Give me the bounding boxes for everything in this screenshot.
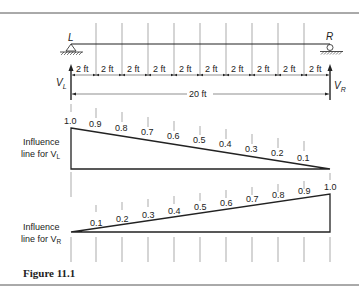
svg-text:0.8: 0.8 [272, 190, 285, 200]
svg-text:0.7: 0.7 [246, 194, 259, 204]
reaction-arrow-left-icon [69, 64, 74, 100]
svg-text:0.2: 0.2 [116, 214, 129, 224]
figure-11-1: L R VL VR 2 ft [0, 0, 359, 293]
svg-text:2 ft: 2 ft [257, 64, 270, 74]
svg-text:0.4: 0.4 [219, 139, 232, 149]
svg-text:0.1: 0.1 [90, 218, 103, 228]
vl-influence-label: Influence line for VL [21, 137, 61, 160]
vr-influence-label: Influence line for VR [21, 222, 62, 245]
svg-text:2 ft: 2 ft [231, 64, 244, 74]
svg-text:0.9: 0.9 [89, 119, 102, 129]
pin-support-left-icon [60, 44, 83, 55]
svg-text:2 ft: 2 ft [101, 64, 114, 74]
svg-text:1.0: 1.0 [64, 116, 77, 126]
svg-text:2 ft: 2 ft [76, 64, 89, 74]
svg-text:0.3: 0.3 [245, 144, 258, 154]
reaction-arrow-right-icon [328, 64, 333, 100]
span-dimension: 20 ft [72, 89, 329, 99]
svg-text:2 ft: 2 ft [127, 64, 140, 74]
svg-text:line for VL: line for VL [21, 149, 61, 160]
svg-text:1.0: 1.0 [324, 182, 337, 192]
svg-text:2 ft: 2 ft [153, 64, 166, 74]
svg-text:Influence: Influence [23, 222, 60, 232]
vl-ordinate-values: 1.0 0.9 0.8 0.7 0.6 0.5 0.4 0.3 0.2 0.1 [64, 116, 310, 163]
right-support-label: R [326, 31, 333, 42]
svg-text:2 ft: 2 ft [283, 64, 296, 74]
left-reaction-label: VL [56, 77, 67, 90]
roller-support-right-icon [320, 45, 343, 55]
svg-text:0.2: 0.2 [271, 148, 284, 158]
influence-line-vr [71, 194, 330, 232]
svg-text:0.5: 0.5 [193, 135, 206, 145]
svg-text:0.9: 0.9 [298, 186, 311, 196]
span-label: 20 ft [189, 89, 207, 99]
svg-text:0.6: 0.6 [220, 198, 233, 208]
svg-text:0.8: 0.8 [115, 123, 128, 133]
svg-text:0.6: 0.6 [167, 131, 180, 141]
svg-text:0.7: 0.7 [141, 127, 154, 137]
svg-text:2 ft: 2 ft [205, 64, 218, 74]
vl-ordinate-ticks [71, 104, 304, 151]
left-support-label: L [68, 32, 74, 43]
segment-labels: 2 ft 2 ft 2 ft 2 ft 2 ft 2 ft 2 ft 2 ft … [75, 64, 322, 74]
vr-ordinate-values: 0.1 0.2 0.3 0.4 0.5 0.6 0.7 0.8 0.9 1.0 [90, 182, 337, 228]
svg-text:0.4: 0.4 [168, 206, 181, 216]
svg-text:2 ft: 2 ft [179, 64, 192, 74]
right-reaction-label: VR [334, 80, 346, 93]
svg-text:0.1: 0.1 [297, 153, 310, 163]
svg-text:2 ft: 2 ft [309, 64, 322, 74]
svg-text:line for VR: line for VR [21, 234, 62, 245]
svg-text:Influence: Influence [23, 137, 60, 147]
svg-text:0.5: 0.5 [194, 202, 207, 212]
division-lines-bottom [71, 237, 330, 262]
figure-caption: Figure 11.1 [23, 267, 75, 279]
svg-text:0.3: 0.3 [142, 210, 155, 220]
